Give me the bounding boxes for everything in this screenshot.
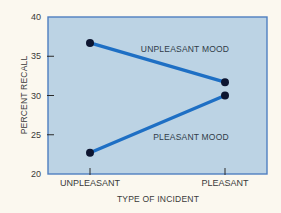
y-tick-label: 35 xyxy=(31,51,41,61)
data-point-marker xyxy=(86,39,94,47)
data-point-marker xyxy=(86,149,94,157)
x-tick-label: UNPLEASANT xyxy=(60,178,121,188)
y-tick-label: 30 xyxy=(31,91,41,101)
y-tick-label: 25 xyxy=(31,130,41,140)
series-label: UNPLEASANT MOOD xyxy=(141,44,229,54)
y-axis-title: PERCENT RECALL xyxy=(19,56,29,135)
data-point-marker xyxy=(221,92,229,100)
line-chart: 2025303540 UNPLEASANTPLEASANT UNPLEASANT… xyxy=(0,0,281,213)
x-axis-title: TYPE OF INCIDENT xyxy=(117,194,199,204)
y-tick-label: 20 xyxy=(31,169,41,179)
x-tick-label: PLEASANT xyxy=(201,178,249,188)
series-label: PLEASANT MOOD xyxy=(153,132,229,142)
plot-area xyxy=(48,17,267,174)
y-tick-label: 40 xyxy=(31,12,41,22)
data-point-marker xyxy=(221,78,229,86)
